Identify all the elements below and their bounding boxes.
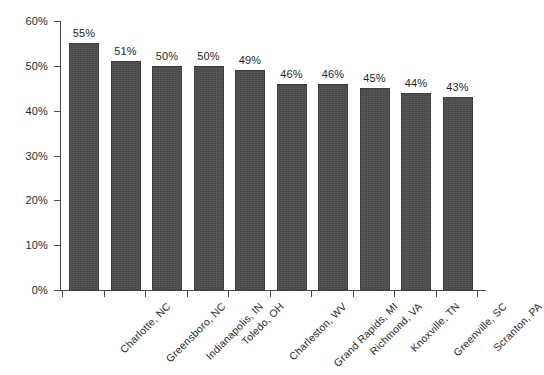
bar	[69, 43, 99, 290]
y-axis-tick-label: 30%	[25, 150, 48, 162]
bar	[277, 84, 307, 290]
y-axis-tick-label: 20%	[25, 194, 48, 206]
y-axis-tick	[54, 21, 60, 22]
bar	[360, 88, 390, 290]
x-axis-tick	[145, 291, 146, 297]
bar-value-label: 55%	[61, 27, 107, 39]
bar-value-label: 45%	[352, 72, 398, 84]
x-axis-tick	[477, 291, 478, 297]
y-axis-tick-label: 40%	[25, 105, 48, 117]
bar-value-label: 51%	[103, 45, 149, 57]
x-axis-tick	[104, 291, 105, 297]
x-axis-tick	[353, 291, 354, 297]
y-axis-tick	[54, 66, 60, 67]
bar-value-label: 50%	[186, 50, 232, 62]
x-axis-tick	[436, 291, 437, 297]
bar-value-label: 43%	[435, 81, 481, 93]
bar	[318, 84, 348, 290]
y-axis-tick-label: 0%	[32, 284, 48, 296]
y-axis-tick-label: 10%	[25, 239, 48, 251]
y-axis-line	[60, 21, 61, 291]
x-axis-tick	[270, 291, 271, 297]
bar-value-label: 50%	[144, 50, 190, 62]
x-axis-tick	[228, 291, 229, 297]
bar	[152, 66, 182, 290]
y-axis-tick	[54, 290, 60, 291]
bar	[401, 93, 431, 290]
x-axis-tick	[311, 291, 312, 297]
y-axis-tick-label: 50%	[25, 60, 48, 72]
bar	[111, 61, 141, 290]
x-axis-line	[60, 290, 486, 291]
x-axis-tick	[187, 291, 188, 297]
bar	[443, 97, 473, 290]
bar	[194, 66, 224, 290]
x-axis-category-label: Charlotte, NC	[117, 300, 172, 355]
y-axis-tick	[54, 245, 60, 246]
bar-value-label: 46%	[269, 68, 315, 80]
y-axis-tick	[54, 156, 60, 157]
bar	[235, 70, 265, 290]
y-axis-tick	[54, 111, 60, 112]
y-axis-tick	[54, 200, 60, 201]
bar-value-label: 49%	[227, 54, 273, 66]
bar-value-label: 46%	[310, 68, 356, 80]
y-axis-tick-label: 60%	[25, 15, 48, 27]
x-axis-tick	[62, 291, 63, 297]
x-axis-tick	[394, 291, 395, 297]
bar-value-label: 44%	[393, 77, 439, 89]
